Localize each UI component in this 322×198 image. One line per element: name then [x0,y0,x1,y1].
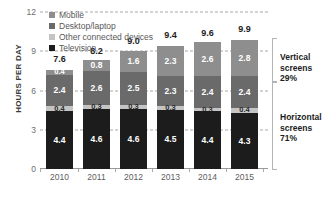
annotation-line-1: Vertical [280,52,312,63]
annotation-line-1: Horizontal [280,112,322,123]
x-tick-mark [263,169,264,172]
legend-swatch-icon [49,34,55,40]
segment-value: 2.6 [202,55,214,64]
horizontal-screens-brace [272,82,277,170]
segment-value: 4.4 [202,136,214,145]
annotation-line-3: 71% [280,133,322,144]
segment-desktop-2011[interactable]: 2.6 [83,71,110,105]
segment-value: 4.5 [165,135,177,144]
segment-mobile-2014[interactable]: 2.6 [194,42,221,76]
bar-group-2011[interactable]: 0.8 2.6 0.3 4.6 [83,60,110,169]
annotation-line-2: screens [280,63,312,74]
x-label-2015: 2015 [231,172,258,182]
segment-television-2013[interactable]: 4.5 [157,110,184,169]
vertical-screens-annotation: Vertical screens 29% [280,52,312,84]
segment-desktop-2010[interactable]: 2.4 [46,75,73,106]
legend-swatch-icon [49,23,55,29]
bar-group-2014[interactable]: 2.6 2.4 0.3 4.4 [194,42,221,169]
legend-item-television[interactable]: Television [49,43,153,53]
segment-desktop-2014[interactable]: 2.4 [194,76,221,107]
x-label-2010: 2010 [46,172,73,182]
segment-value: 4.4 [54,136,66,145]
bar-total-2014: 9.6 [194,28,221,38]
x-tick-mark [40,169,41,172]
x-tick-mark [78,169,79,172]
segment-value: 2.4 [54,86,66,95]
bar-total-2015: 9.9 [231,24,258,34]
segment-mobile-2012[interactable]: 1.6 [120,51,147,72]
x-tick-mark [115,169,116,172]
segment-desktop-2015[interactable]: 2.4 [231,76,258,107]
legend-item-mobile[interactable]: Mobile [49,10,153,20]
x-label-2014: 2014 [194,172,221,182]
annotation-line-3: 29% [280,73,312,84]
x-label-2012: 2012 [120,172,147,182]
bar-group-2012[interactable]: 1.6 2.5 0.3 4.6 [120,51,147,169]
legend-label: Mobile [59,11,84,20]
bar-group-2015[interactable]: 2.8 2.4 0.4 4.3 [231,40,258,169]
legend-label: Television [59,44,96,53]
x-label-2013: 2013 [157,172,184,182]
segment-value: 1.6 [128,57,140,66]
x-label-2011: 2011 [83,172,110,182]
segment-value: 2.5 [128,84,140,93]
y-tick-6: 6 [16,86,36,96]
segment-mobile-2015[interactable]: 2.8 [231,40,258,77]
segment-value: 2.6 [91,84,103,93]
segment-value: 2.3 [165,87,177,96]
segment-desktop-2012[interactable]: 2.5 [120,72,147,105]
stacked-bar-chart: HOURS PER DAY 12 9 6 3 0 0.4 2.4 0.4 4.4… [0,0,322,198]
segment-mobile-2013[interactable]: 2.3 [157,46,184,76]
bar-total-2013: 9.4 [157,30,184,40]
y-tick-3: 3 [16,125,36,135]
y-axis-ticks: 12 9 6 3 0 [16,0,36,198]
segment-value: 4.3 [239,137,251,146]
x-tick-mark [189,169,190,172]
segment-television-2010[interactable]: 4.4 [46,111,73,169]
segment-value: 0.8 [91,61,103,70]
annotation-line-2: screens [280,123,322,134]
legend-label: Other connected devices [59,33,153,42]
legend-item-desktop-laptop[interactable]: Desktop/laptop [49,21,153,31]
segment-television-2012[interactable]: 4.6 [120,109,147,169]
legend-item-other-connected-devices[interactable]: Other connected devices [49,32,153,42]
x-axis-labels: 2010 2011 2012 2013 2014 2015 [40,172,268,186]
bar-total-2010: 7.6 [46,54,73,64]
segment-value: 4.6 [91,135,103,144]
x-tick-mark [152,169,153,172]
x-tick-mark [226,169,227,172]
legend-swatch-icon [49,45,55,51]
segment-value: 2.8 [239,54,251,63]
segment-mobile-2011[interactable]: 0.8 [83,60,110,70]
vertical-screens-brace [272,38,277,82]
bar-group-2013[interactable]: 2.3 2.3 0.3 4.5 [157,46,184,169]
segment-desktop-2013[interactable]: 2.3 [157,76,184,106]
y-tick-9: 9 [16,46,36,56]
segment-television-2011[interactable]: 4.6 [83,109,110,169]
legend-swatch-icon [49,12,55,18]
segment-television-2015[interactable]: 4.3 [231,113,258,169]
segment-value: 2.4 [239,88,251,97]
chart-legend: Mobile Desktop/laptop Other connected de… [49,10,153,54]
segment-television-2014[interactable]: 4.4 [194,111,221,169]
horizontal-screens-annotation: Horizontal screens 71% [280,112,322,144]
segment-value: 2.3 [165,57,177,66]
segment-value: 2.4 [202,88,214,97]
segment-value: 4.6 [128,135,140,144]
y-tick-0: 0 [16,164,36,174]
legend-label: Desktop/laptop [59,22,116,31]
y-tick-12: 12 [16,7,36,17]
bar-group-2010[interactable]: 0.4 2.4 0.4 4.4 [46,70,73,169]
